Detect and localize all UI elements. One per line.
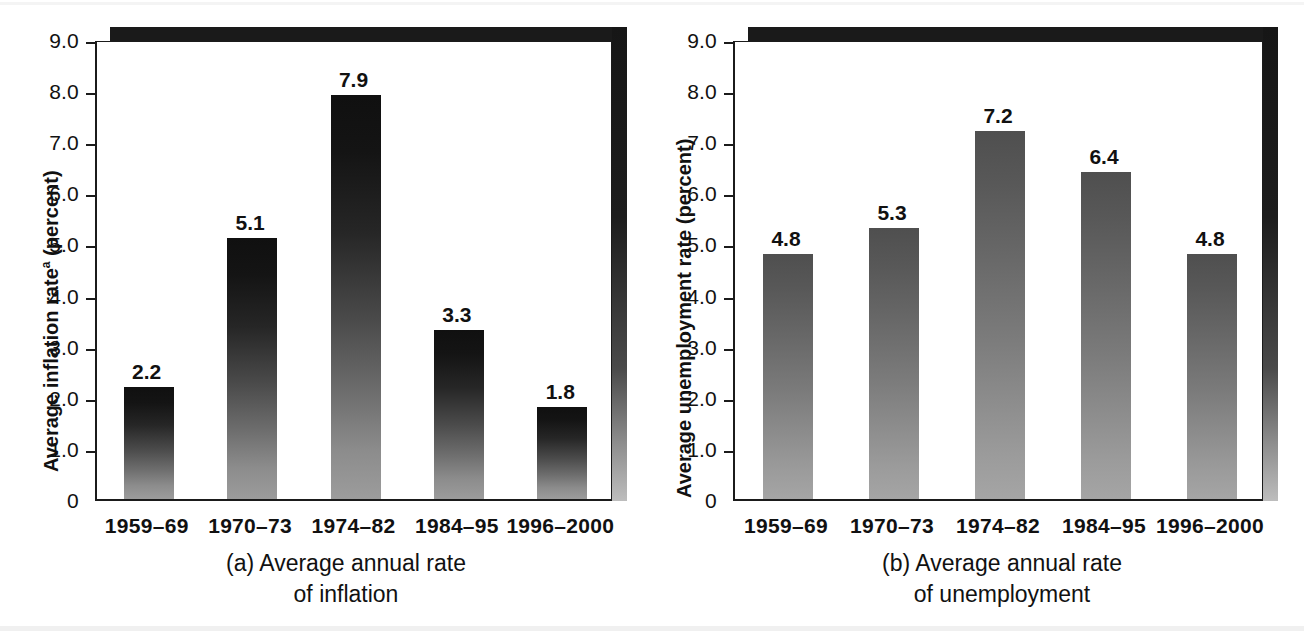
y-axis-tick — [724, 400, 735, 402]
bar-value-label: 5.3 — [852, 202, 932, 223]
bar — [434, 330, 484, 499]
bar — [975, 131, 1025, 499]
bar — [1081, 172, 1131, 499]
y-axis-tick-label: 7.0 — [49, 132, 79, 153]
plot-shadow-right-a — [612, 27, 627, 501]
caption-line-1-b: (b) Average annual rate — [882, 550, 1122, 576]
y-axis-tick — [724, 246, 735, 248]
caption-line-2-a: of inflation — [176, 579, 516, 610]
y-axis-tick-label: 6.0 — [687, 183, 717, 204]
bar-value-label: 1.8 — [520, 381, 600, 402]
y-axis-tick-label: 3.0 — [687, 337, 717, 358]
y-axis-tick-label: 4.0 — [687, 286, 717, 307]
panel-a-inflation: Average inflation ratea (percent) (a) Av… — [0, 0, 652, 635]
y-axis-tick-label: 0 — [705, 490, 717, 511]
y-axis-tick-label: 6.0 — [49, 183, 79, 204]
bar — [124, 387, 174, 499]
y-axis-tick-label: 1.0 — [687, 439, 717, 460]
bar-value-label: 4.8 — [746, 228, 826, 249]
bar-value-label: 6.4 — [1064, 146, 1144, 167]
y-axis-tick — [724, 93, 735, 95]
y-axis-tick — [724, 195, 735, 197]
y-axis-tick — [724, 451, 735, 453]
y-axis-tick — [724, 42, 735, 44]
y-axis-tick — [86, 246, 97, 248]
bar — [537, 407, 587, 499]
y-axis-tick — [724, 144, 735, 146]
x-axis-category-label: 1996–2000 — [495, 515, 626, 537]
bar — [227, 238, 277, 499]
y-axis-tick-label: 8.0 — [687, 81, 717, 102]
y-axis-tick — [86, 349, 97, 351]
y-axis-tick-label: 3.0 — [49, 337, 79, 358]
y-axis-tick — [86, 195, 97, 197]
caption-line-1-a: (a) Average annual rate — [226, 550, 466, 576]
panel-b-unemployment: Average unemployment rate (percent) (b) … — [652, 0, 1304, 635]
y-axis-tick-label: 9.0 — [687, 30, 717, 51]
figure-two-panel-bar-charts: Average inflation ratea (percent) (a) Av… — [0, 0, 1304, 635]
y-axis-tick — [724, 298, 735, 300]
x-axis-category-label: 1996–2000 — [1143, 515, 1277, 537]
y-axis-tick-label: 1.0 — [49, 439, 79, 460]
plot-box-a — [95, 41, 612, 501]
y-axis-tick-label: 9.0 — [49, 30, 79, 51]
plot-shadow-right-b — [1263, 27, 1278, 501]
bar-value-label: 7.9 — [314, 69, 394, 90]
y-axis-tick — [86, 298, 97, 300]
plot-area-a — [95, 27, 627, 501]
y-axis-title-a: Average inflation ratea (percent) — [36, 170, 61, 472]
bar-value-label: 7.2 — [958, 105, 1038, 126]
y-axis-tick-label: 4.0 — [49, 286, 79, 307]
plot-shadow-top-a — [110, 27, 627, 41]
plot-shadow-top-b — [748, 27, 1278, 41]
y-axis-tick — [86, 144, 97, 146]
y-axis-tick-label: 2.0 — [687, 388, 717, 409]
bar — [869, 228, 919, 499]
y-axis-tick-label: 5.0 — [49, 234, 79, 255]
bar — [763, 254, 813, 499]
bar — [331, 95, 381, 499]
y-axis-tick — [724, 349, 735, 351]
bar — [1187, 254, 1237, 499]
plot-area-b — [733, 27, 1278, 501]
panel-caption-a: (a) Average annual rate of inflation — [176, 548, 516, 610]
y-axis-tick-label: 7.0 — [687, 132, 717, 153]
bar-value-label: 2.2 — [107, 361, 187, 382]
y-axis-tick-label: 2.0 — [49, 388, 79, 409]
bar-value-label: 3.3 — [417, 304, 497, 325]
bar-value-label: 4.8 — [1170, 228, 1250, 249]
caption-line-2-b: of unemployment — [822, 579, 1182, 610]
y-axis-tick-label: 8.0 — [49, 81, 79, 102]
panel-caption-b: (b) Average annual rate of unemployment — [822, 548, 1182, 610]
y-axis-tick — [86, 451, 97, 453]
y-axis-tick-label: 5.0 — [687, 234, 717, 255]
y-axis-tick — [86, 400, 97, 402]
y-axis-tick-label: 0 — [67, 490, 79, 511]
bar-value-label: 5.1 — [210, 212, 290, 233]
y-axis-title-footnote-marker: a — [39, 262, 53, 269]
y-axis-tick — [86, 93, 97, 95]
y-axis-tick — [86, 42, 97, 44]
